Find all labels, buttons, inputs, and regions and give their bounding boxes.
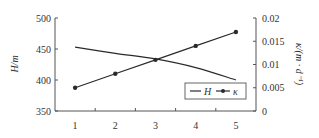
x-tick-label: 1 (73, 120, 78, 131)
x-tick-label: 2 (113, 120, 118, 131)
y-left-tick-label: 450 (36, 44, 51, 55)
x-tick-label: 4 (193, 120, 198, 131)
axes: 35040045050000.0050.010.0150.0212345 (36, 13, 285, 132)
y-axis-right-title: κ/(m · d⁻¹) (293, 43, 305, 86)
y-left-tick-label: 350 (36, 106, 51, 117)
kappa-data-point (73, 86, 77, 90)
legend-marker-kappa (221, 89, 225, 93)
legend-label-kappa: κ (233, 86, 238, 97)
y-right-tick-label: 0.02 (262, 13, 280, 24)
x-tick-label: 3 (153, 120, 158, 131)
kappa-data-point (194, 44, 198, 48)
kappa-data-point (153, 58, 157, 62)
y-right-tick-label: 0.015 (262, 36, 285, 47)
y-left-tick-label: 400 (36, 75, 51, 86)
series-group (73, 30, 238, 90)
y-right-tick-label: 0 (262, 106, 267, 117)
legend-label-H: H (203, 86, 212, 97)
y-axis-left-title: H/m (9, 55, 20, 73)
kappa-data-point (113, 72, 117, 76)
y-right-tick-label: 0.005 (262, 82, 285, 93)
kappa-data-point (234, 30, 238, 34)
y-right-tick-label: 0.01 (262, 59, 280, 70)
x-tick-label: 5 (233, 120, 238, 131)
legend: Hκ (185, 83, 246, 99)
y-left-tick-label: 500 (36, 13, 51, 24)
dual-axis-line-chart: 35040045050000.0050.010.0150.0212345 Hκ … (0, 0, 319, 138)
series-line-H (75, 47, 236, 80)
